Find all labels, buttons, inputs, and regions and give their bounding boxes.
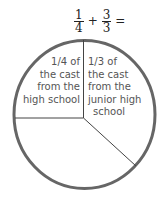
slice-label-high-school: 1/4 of the cast from the high school	[22, 56, 80, 106]
slice-label-junior-high: 1/3 of the cast from the junior high sch…	[88, 56, 152, 119]
